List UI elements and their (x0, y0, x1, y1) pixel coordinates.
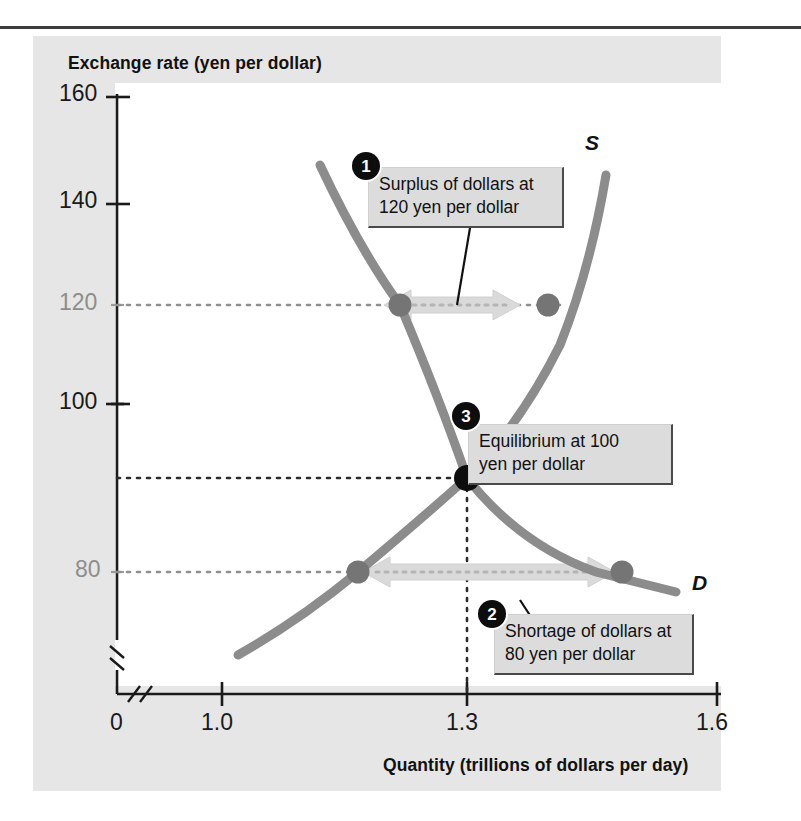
callout-badge-3: 3 (452, 402, 480, 430)
y-tick-label-80: 80 (75, 556, 101, 583)
supply-curve-label: S (585, 131, 599, 155)
x-tick-label-1-3: 1.3 (446, 709, 478, 736)
demand-curve (320, 165, 676, 592)
callout-badge-1: 1 (352, 152, 380, 180)
y-tick-label-160: 160 (59, 80, 97, 107)
x-axis-title: Quantity (trillions of dollars per day) (383, 755, 688, 776)
callout-surplus: Surplus of dollars at 120 yen per dollar (368, 167, 564, 228)
exchange-rate-supply-demand-chart (0, 0, 801, 821)
supply-curve (238, 175, 606, 655)
x-tick-label-0: 0 (110, 709, 123, 736)
demand-curve-label: D (692, 571, 707, 595)
y-tick-label-140: 140 (59, 187, 97, 214)
y-tick-label-120: 120 (59, 289, 97, 316)
x-tick-label-1-6: 1.6 (696, 709, 728, 736)
y-axis-title: Exchange rate (yen per dollar) (68, 53, 322, 74)
callout-equilibrium: Equilibrium at 100 yen per dollar (468, 424, 673, 485)
y-tick-label-100: 100 (59, 388, 97, 415)
callout-badge-2: 2 (478, 600, 506, 628)
callout-shortage: Shortage of dollars at 80 yen per dollar (494, 614, 694, 675)
x-tick-label-1-0: 1.0 (201, 709, 233, 736)
